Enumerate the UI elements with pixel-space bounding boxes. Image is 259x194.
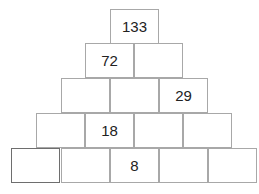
brick-r4-c1 [36, 113, 85, 148]
brick-r2-c2 [134, 43, 183, 78]
brick-r2-c1: 72 [85, 43, 134, 78]
brick-r5-c4 [159, 148, 208, 183]
number-pyramid: 133 72 29 18 8 [0, 0, 259, 194]
brick-r1-c1: 133 [110, 9, 159, 44]
brick-r5-c5 [208, 148, 257, 183]
brick-r5-c3: 8 [110, 148, 159, 183]
brick-r5-c1 [11, 148, 60, 183]
brick-r4-c4 [183, 113, 232, 148]
brick-r4-c3 [134, 113, 183, 148]
brick-r5-c2 [61, 148, 110, 183]
brick-r3-c2 [110, 78, 159, 113]
brick-r3-c1 [61, 78, 110, 113]
brick-r3-c3: 29 [159, 78, 208, 113]
brick-r4-c2: 18 [85, 113, 134, 148]
